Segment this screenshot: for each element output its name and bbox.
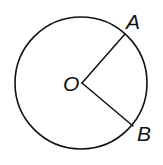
radius-oa <box>82 34 125 83</box>
label-center-o: O <box>63 72 79 95</box>
circle <box>15 17 147 149</box>
radius-ob <box>82 83 133 126</box>
circle-diagram: O A B <box>0 0 163 165</box>
label-point-b: B <box>137 122 151 145</box>
label-point-a: A <box>124 10 140 33</box>
